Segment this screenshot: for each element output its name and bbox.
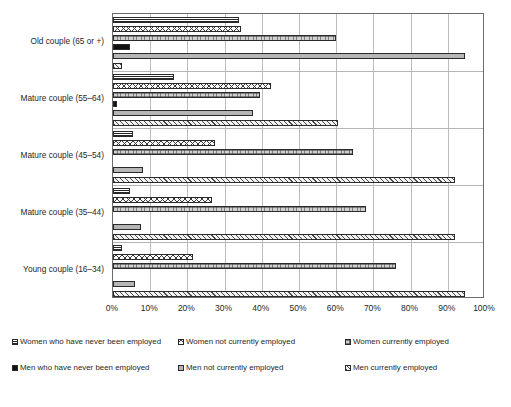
plot-wrapper: Old couple (65 or +)Mature couple (55–64… <box>0 0 511 330</box>
bar <box>113 149 353 155</box>
cross-hatch-swatch-icon <box>178 339 184 345</box>
chart-legend: Women who have never been employedWomen … <box>0 338 511 398</box>
legend-item-label: Men who have never been employed <box>20 364 149 372</box>
x-axis-tick-label: 100% <box>473 303 495 313</box>
y-axis-label: Mature couple (55–64) <box>21 94 104 102</box>
x-axis-tick-label: 50% <box>289 303 306 313</box>
x-axis-tick-label: 80% <box>401 303 418 313</box>
legend-item[interactable]: Women not currently employed <box>178 338 295 346</box>
bar <box>113 44 130 50</box>
legend-item-label: Men currently employed <box>353 364 437 372</box>
bar <box>113 140 215 146</box>
legend-item-label: Women currently employed <box>353 338 449 346</box>
solid-black-swatch-icon <box>12 365 18 371</box>
x-axis-tick-label: 70% <box>364 303 381 313</box>
y-axis-label: Old couple (65 or +) <box>30 37 104 45</box>
diagonal-hatch-swatch-icon <box>345 365 351 371</box>
bar <box>113 92 260 98</box>
bar <box>113 197 212 203</box>
x-axis-tick-label: 90% <box>438 303 455 313</box>
plot-area <box>112 13 484 298</box>
legend-item-label: Women who have never been employed <box>20 338 161 346</box>
bar <box>113 245 122 251</box>
bar <box>113 167 143 173</box>
legend-item[interactable]: Women who have never been employed <box>12 338 161 346</box>
legend-row-men: Men who have never been employedMen not … <box>0 364 511 380</box>
bar <box>113 131 133 137</box>
bar <box>113 291 465 297</box>
legend-item-label: Men not currently employed <box>186 364 283 372</box>
bar <box>113 263 396 269</box>
legend-item[interactable]: Women currently employed <box>345 338 449 346</box>
fine-dotted-grey-swatch-icon <box>345 339 351 345</box>
bar <box>113 281 135 287</box>
bar-group <box>113 71 483 128</box>
bar <box>113 74 174 80</box>
bar <box>113 188 130 194</box>
bar-group <box>113 242 483 299</box>
horizontal-stripes-swatch-icon <box>12 339 18 345</box>
bar <box>113 110 253 116</box>
bar <box>113 206 366 212</box>
bar <box>113 53 465 59</box>
legend-item-label: Women not currently employed <box>186 338 295 346</box>
bar-group <box>113 14 483 71</box>
x-axis-tick-label: 0% <box>106 303 118 313</box>
bar <box>113 177 455 183</box>
x-axis-tick-label: 40% <box>252 303 269 313</box>
bar <box>113 234 455 240</box>
bar <box>113 120 338 126</box>
legend-item[interactable]: Men who have never been employed <box>12 364 149 372</box>
grouped-bar-chart: Old couple (65 or +)Mature couple (55–64… <box>0 0 511 407</box>
y-axis-label: Mature couple (35–44) <box>21 208 104 216</box>
bar <box>113 254 193 260</box>
x-axis: 0%10%20%30%40%50%60%70%80%90%100% <box>112 299 484 319</box>
y-axis-label: Young couple (16–34) <box>23 265 104 273</box>
bar-group <box>113 185 483 242</box>
x-axis-tick-label: 60% <box>327 303 344 313</box>
bar <box>113 35 336 41</box>
x-axis-tick-label: 30% <box>215 303 232 313</box>
legend-item[interactable]: Men not currently employed <box>178 364 283 372</box>
bar <box>113 101 117 107</box>
y-axis-category-labels: Old couple (65 or +)Mature couple (55–64… <box>0 12 108 300</box>
bar <box>113 83 271 89</box>
x-axis-tick-label: 10% <box>141 303 158 313</box>
bar <box>113 17 239 23</box>
x-axis-tick-label: 20% <box>178 303 195 313</box>
bar <box>113 26 241 32</box>
y-axis-label: Mature couple (45–54) <box>21 151 104 159</box>
solid-grey-swatch-icon <box>178 365 184 371</box>
bar <box>113 63 122 69</box>
bar-group <box>113 128 483 185</box>
legend-item[interactable]: Men currently employed <box>345 364 437 372</box>
legend-row-women: Women who have never been employedWomen … <box>0 338 511 354</box>
bar <box>113 224 141 230</box>
